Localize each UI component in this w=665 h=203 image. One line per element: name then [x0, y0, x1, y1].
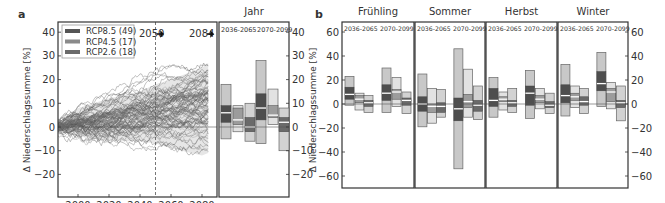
- box: [245, 103, 255, 141]
- season-2: Herbst2036-20652070-2099: [486, 6, 558, 188]
- box: [535, 88, 544, 108]
- box: [382, 68, 391, 112]
- period-label: 2070-2099: [453, 25, 487, 32]
- legend-swatch: [65, 40, 80, 44]
- x-tick-label: 2020: [96, 200, 121, 203]
- box: [616, 86, 625, 121]
- legend-label: RCP8.5 (49): [86, 26, 136, 36]
- y-tick-label-right: 20: [292, 74, 305, 85]
- y-tick-label: −60: [318, 171, 339, 182]
- box: [279, 108, 289, 151]
- box: [508, 88, 517, 112]
- box: [355, 93, 364, 110]
- y-tick-label-right: 40: [292, 27, 305, 38]
- box: [233, 106, 243, 132]
- panel-label-b: b: [315, 8, 323, 21]
- y-axis-label: Δ Niederschlagssumme [%]: [22, 48, 32, 172]
- box: [345, 76, 354, 105]
- ensemble-lines: [55, 63, 208, 155]
- y-tick-label: 60: [326, 27, 339, 38]
- season-1: Sommer2036-20652070-2099: [415, 6, 487, 188]
- season-title: Frühling: [358, 6, 398, 17]
- period-label: 2036-2065: [560, 25, 594, 32]
- jahr-title: Jahr: [243, 6, 264, 17]
- x-tick-label: 2000: [65, 200, 90, 203]
- box: [428, 88, 437, 123]
- box: [607, 82, 616, 108]
- box: [525, 70, 534, 118]
- box: [402, 92, 411, 114]
- legend: RCP8.5 (49)RCP4.5 (17)RCP2.6 (18): [62, 25, 136, 58]
- y-tick-label: 40: [326, 51, 339, 62]
- y-tick-label-right: 60: [631, 27, 644, 38]
- box: [221, 84, 231, 139]
- box: [392, 78, 401, 107]
- x-tick-label: 2040: [127, 200, 152, 203]
- y-tick-label-right: 0: [631, 99, 637, 110]
- y-tick-label: 20: [42, 74, 55, 85]
- period-label: 2070-2099: [380, 25, 414, 32]
- box: [561, 64, 570, 116]
- box: [436, 90, 445, 118]
- y-tick-label-right: 10: [292, 98, 305, 109]
- box: [489, 78, 498, 118]
- period-label: 2070-2099: [257, 26, 292, 34]
- box: [597, 52, 606, 106]
- y-tick-label-right: 40: [631, 51, 644, 62]
- legend-swatch: [65, 29, 80, 33]
- figure: −20−1001020304020002020204020602080Δ Nie…: [0, 0, 665, 203]
- season-3: Winter2036-20652070-2099: [558, 6, 630, 188]
- box: [579, 88, 588, 113]
- period-label: 2036-2065: [221, 26, 256, 34]
- box: [545, 93, 554, 113]
- legend-swatch: [65, 50, 80, 54]
- y-tick-label: 20: [326, 75, 339, 86]
- box: [454, 49, 463, 169]
- legend-label: RCP4.5 (17): [86, 37, 136, 47]
- box: [256, 61, 266, 144]
- y-tick-label: 0: [49, 122, 55, 133]
- period-label: 2070-2099: [596, 25, 630, 32]
- y-tick-label: 40: [42, 27, 55, 38]
- box: [571, 86, 580, 108]
- period-label: 2070-2099: [524, 25, 558, 32]
- period-label: 2036-2065: [488, 25, 522, 32]
- y-tick-label: −20: [34, 169, 55, 180]
- y-tick-label: 30: [42, 50, 55, 61]
- y-tick-label-right: −20: [631, 123, 652, 134]
- y-tick-label: −40: [318, 147, 339, 158]
- legend-label: RCP2.6 (18): [86, 47, 136, 57]
- period-label: 2036-2065: [344, 25, 378, 32]
- season-0: Frühling2036-20652070-2099: [342, 6, 414, 188]
- y-tick-label: −20: [318, 123, 339, 134]
- box: [418, 74, 427, 127]
- y-tick-label-right: 20: [631, 75, 644, 86]
- period-label: 2036-2065: [417, 25, 451, 32]
- y-tick-label: 0: [333, 99, 339, 110]
- x-tick-label: 2060: [158, 200, 183, 203]
- box: [268, 89, 278, 125]
- season-title: Winter: [577, 6, 611, 17]
- season-title: Herbst: [505, 6, 538, 17]
- y-tick-label: 10: [42, 98, 55, 109]
- y-tick-label-right: 0: [292, 122, 298, 133]
- box: [473, 86, 482, 120]
- season-title: Sommer: [429, 6, 472, 17]
- box: [499, 92, 508, 110]
- x-tick-label: 2080: [189, 200, 214, 203]
- y-tick-label-right: −40: [631, 147, 652, 158]
- y-tick-label-right: −60: [631, 171, 652, 182]
- box: [464, 69, 473, 117]
- y-tick-label-right: 30: [292, 50, 305, 61]
- panel-label-a: a: [18, 8, 25, 21]
- y-tick-label: −10: [34, 145, 55, 156]
- y-axis-label: Δ Niederschlagssumme [%]: [308, 48, 318, 172]
